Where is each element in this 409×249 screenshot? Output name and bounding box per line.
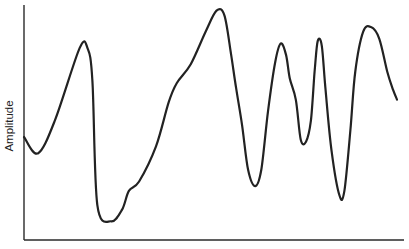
waveform-line	[24, 9, 397, 222]
data-points	[23, 10, 398, 223]
chart: Amplitude	[0, 0, 409, 249]
y-axis-label: Amplitude	[3, 100, 15, 151]
